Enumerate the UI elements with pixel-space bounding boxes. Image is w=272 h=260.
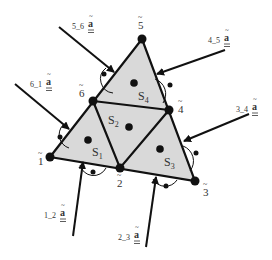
traction-label-2_3: 2_3a~ <box>118 223 140 244</box>
node-3 <box>191 177 200 186</box>
node-5 <box>138 35 147 44</box>
diagram-canvas: 1~2~3~4~5~6~S1S2S3S45_6a~6_1a~4_5a~3_4a~… <box>0 0 272 260</box>
traction-arrow-5_6 <box>59 27 114 72</box>
traction-label-1_2: 1_2a~ <box>44 201 66 222</box>
centroid-dot <box>130 79 138 87</box>
tilde-mark: ~ <box>117 171 122 180</box>
tilde-mark: ~ <box>138 13 143 22</box>
tilde-mark: ~ <box>38 149 43 158</box>
tilde-mark: ~ <box>79 81 84 90</box>
svg-text:~: ~ <box>61 201 65 209</box>
traction-label-6_1: 6_1a~ <box>30 70 52 91</box>
svg-text:4_5: 4_5 <box>208 36 220 45</box>
svg-text:1_2: 1_2 <box>44 211 56 220</box>
svg-text:~: ~ <box>47 70 51 78</box>
centroid-dot <box>84 136 92 144</box>
traction-arrow-4_5 <box>157 50 225 74</box>
traction-label-3_4: 3_4a~ <box>236 95 258 116</box>
centroid-dot <box>156 145 164 153</box>
svg-text:~: ~ <box>89 12 93 20</box>
node-1 <box>46 153 55 162</box>
svg-text:2_3: 2_3 <box>118 233 130 242</box>
traction-arrow-3_4 <box>184 114 249 141</box>
svg-text:~: ~ <box>225 26 229 34</box>
traction-label-4_5: 4_5a~ <box>208 26 230 47</box>
traction-arrow-6_1 <box>15 84 69 129</box>
tilde-mark: ~ <box>178 97 183 106</box>
svg-text:3_4: 3_4 <box>236 105 248 114</box>
element-diagram: 1~2~3~4~5~6~S1S2S3S45_6a~6_1a~4_5a~3_4a~… <box>0 0 272 260</box>
traction-arrow-2_3 <box>146 177 156 247</box>
svg-text:~: ~ <box>135 223 139 231</box>
centroid-dot <box>125 123 133 131</box>
svg-text:~: ~ <box>253 95 257 103</box>
node-4 <box>165 106 174 115</box>
svg-text:5_6: 5_6 <box>72 22 84 31</box>
traction-label-5_6: 5_6a~ <box>72 12 94 33</box>
traction-arrow-1_2 <box>73 162 83 236</box>
tilde-mark: ~ <box>203 180 208 189</box>
node-6 <box>89 97 98 106</box>
svg-text:6_1: 6_1 <box>30 80 42 89</box>
